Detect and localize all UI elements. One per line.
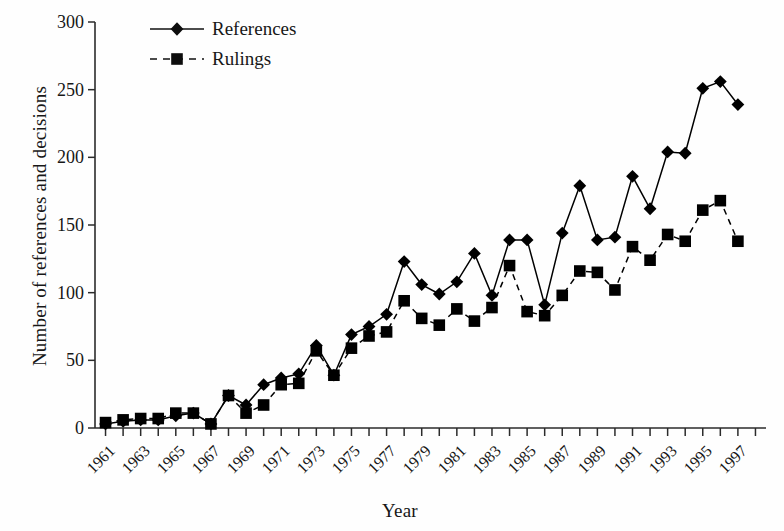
chart-figure: 050100150200250300 196119631965196719691… [0, 0, 784, 531]
y-axis-title-text: Number of references and decisions [29, 86, 50, 366]
x-axis-title: Year [340, 500, 460, 522]
legend-sample-rulings [148, 49, 206, 69]
x-axis-title-text: Year [382, 500, 418, 521]
legend-label-references: References [206, 18, 296, 40]
chart-legend: References Rulings [148, 14, 378, 74]
square-icon [148, 49, 206, 69]
y-axis-title: Number of references and decisions [29, 16, 51, 436]
legend-sample-references [148, 19, 206, 39]
legend-item-rulings: Rulings [148, 44, 378, 74]
legend-item-references: References [148, 14, 378, 44]
legend-label-rulings: Rulings [206, 48, 271, 70]
diamond-icon [148, 19, 206, 39]
x-axis-tick-labels: 1961196319651967196919711973197519771979… [0, 0, 784, 531]
